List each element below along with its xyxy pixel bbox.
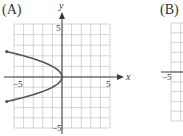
figure: (A) x y −5 5 5 −5 (B) −5 <box>0 0 183 136</box>
y-axis-label: y <box>58 0 64 11</box>
x-axis-label: x <box>125 71 131 82</box>
x-tick-max: 5 <box>106 79 111 89</box>
panel-a: (A) x y −5 5 5 −5 <box>2 0 131 134</box>
panel-a-label: (A) <box>2 2 22 18</box>
y-axis-arrow-icon <box>59 12 65 19</box>
y-tick-min: −5 <box>52 123 62 133</box>
endpoint-dot <box>5 50 8 53</box>
endpoint-dot <box>5 100 8 103</box>
x-tick-min: −5 <box>13 79 23 89</box>
panel-b-x-tick-min: −5 <box>162 72 172 82</box>
panel-b: (B) −5 <box>160 2 183 121</box>
y-tick-max: 5 <box>56 23 61 33</box>
x-axis-arrow-icon <box>117 74 124 80</box>
panel-b-label: (B) <box>160 2 179 18</box>
